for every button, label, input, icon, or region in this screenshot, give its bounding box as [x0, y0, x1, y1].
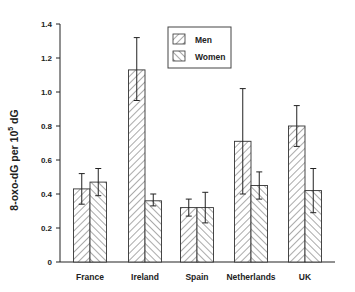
- x-axis: FranceIrelandSpainNetherlandsUK: [60, 262, 335, 282]
- legend-label-men: Men: [195, 35, 212, 45]
- y-axis: 00.20.40.60.81.01.21.4: [41, 20, 60, 267]
- legend: Men Women: [168, 27, 231, 68]
- y-tick-label: 0.8: [41, 122, 53, 131]
- legend-swatch-women: [173, 51, 185, 61]
- x-tick-label: Ireland: [131, 272, 159, 282]
- y-axis-label-main: 8-oxo-dG per 10: [8, 131, 20, 211]
- legend-label-women: Women: [195, 52, 226, 62]
- chart-canvas: 00.20.40.60.81.01.21.4 FranceIrelandSpai…: [0, 0, 355, 292]
- bars: [74, 70, 322, 262]
- y-tick-label: 0.4: [41, 190, 53, 199]
- y-axis-label: 8-oxo-dG per 105 dG: [7, 109, 20, 210]
- bar-chart: 00.20.40.60.81.01.21.4 FranceIrelandSpai…: [0, 0, 355, 292]
- y-tick-label: 1.4: [41, 20, 53, 29]
- x-tick-label: UK: [299, 272, 312, 282]
- legend-swatch-men: [173, 34, 185, 44]
- y-axis-label-tail: dG: [8, 109, 20, 127]
- y-tick-label: 1.2: [41, 54, 53, 63]
- y-tick-label: 0: [48, 258, 53, 267]
- y-tick-label: 1.0: [41, 88, 53, 97]
- y-tick-label: 0.2: [41, 224, 53, 233]
- bar-women-ireland: [145, 201, 162, 262]
- svg-text:8-oxo-dG per 105 dG: 8-oxo-dG per 105 dG: [7, 109, 20, 210]
- x-tick-label: Netherlands: [226, 272, 275, 282]
- y-tick-label: 0.6: [41, 156, 53, 165]
- x-tick-label: France: [76, 272, 104, 282]
- x-tick-label: Spain: [185, 272, 208, 282]
